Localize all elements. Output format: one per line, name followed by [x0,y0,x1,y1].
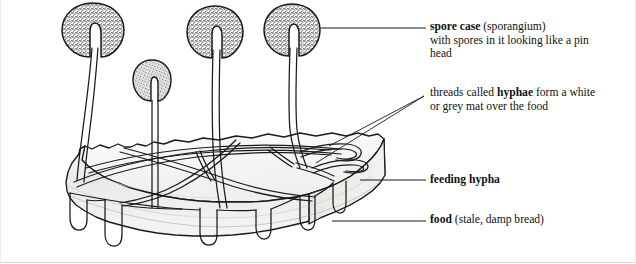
figure-canvas: spore case (sporangium) with spores in i… [0,0,636,264]
label-feeding-hypha-line1: feeding hypha [430,173,500,187]
spore-case-large-right [264,4,320,56]
label-spore-case: spore case (sporangium) with spores in i… [430,20,589,61]
label-spore-case-line2: with spores in it looking like a pin [430,34,589,48]
label-hyphae-line1-post: form a white [533,86,595,99]
spore-case-large-left [62,3,124,57]
label-spore-case-line3: head [430,47,589,61]
label-food-term: food [430,213,452,226]
label-hyphae: threads called hyphae form a white or gr… [430,86,595,113]
label-food-rest: (stale, damp bread) [452,213,544,226]
label-hyphae-line2: or grey mat over the food [430,100,595,114]
label-feeding-hypha-term: feeding hypha [430,173,500,186]
label-food-line1: food (stale, damp bread) [430,213,544,227]
label-spore-case-line1-rest: (sporangium) [480,20,545,33]
label-spore-case-term: spore case [430,20,480,33]
label-food: food (stale, damp bread) [430,213,544,227]
label-spore-case-line1: spore case (sporangium) [430,20,589,34]
label-hyphae-term: hyphae [497,86,533,99]
label-feeding-hypha: feeding hypha [430,173,500,187]
label-hyphae-line1: threads called hyphae form a white [430,86,595,100]
spore-case-small [133,60,171,101]
label-hyphae-line1-pre: threads called [430,86,497,99]
spore-case-large-middle [187,6,243,58]
